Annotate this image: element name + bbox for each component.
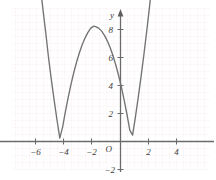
x-tick-label-2: 2: [146, 147, 151, 157]
y-tick-label-8: 8: [109, 25, 114, 35]
x-tick-label-neg4: −4: [58, 147, 69, 157]
y-tick-label-4: 4: [109, 81, 114, 91]
x-tick-label-neg2: −2: [86, 147, 97, 157]
x-tick-label-neg6: −6: [30, 147, 41, 157]
origin-label: O: [106, 144, 113, 154]
graph-figure: −6 −4 −2 2 4 8 6 4 2 −2 O y: [0, 0, 216, 180]
y-tick-label-2: 2: [109, 109, 114, 119]
x-tick-label-4: 4: [174, 147, 179, 157]
y-tick-label-neg2: −2: [104, 165, 115, 175]
coordinate-plane: −6 −4 −2 2 4 8 6 4 2 −2 O y: [0, 0, 216, 180]
y-axis-label: y: [109, 10, 114, 20]
y-tick-label-6: 6: [109, 53, 114, 63]
